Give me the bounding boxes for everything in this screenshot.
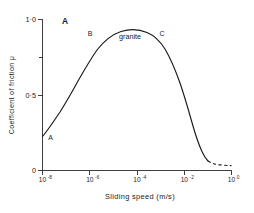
x-tick-label-exponent-1e-6: -6 [95, 175, 100, 180]
y-axis-title: Coefficient of friction μ [7, 56, 16, 135]
x-tick-label-exponent-1e-8: -8 [48, 175, 53, 180]
x-tick-label-mantissa-1e-4: 10 [133, 176, 141, 183]
x-tick-label-mantissa-1e0: 10 [228, 176, 236, 183]
y-tick-label-0: 0 [32, 166, 36, 175]
annotation-point-c: C [159, 30, 164, 37]
x-tick-label-exponent-1e0: 0 [237, 175, 240, 180]
annotation-point-a: A [48, 134, 53, 141]
x-tick-label-exponent-1e-4: -4 [142, 175, 147, 180]
x-tick-label-exponent-1e-2: -2 [190, 175, 195, 180]
friction-vs-sliding-speed-chart: 1·0 0·5 0 10 -8 10 -6 10 -4 10 -2 10 0 [0, 0, 254, 213]
panel-label: A [62, 16, 68, 26]
annotation-point-b: B [88, 30, 93, 37]
x-tick-label-mantissa-1e-8: 10 [39, 176, 47, 183]
x-axis-title: Sliding speed (m/s) [105, 192, 175, 201]
x-tick-label-mantissa-1e-2: 10 [181, 176, 189, 183]
annotation-series-granite: granite [119, 32, 141, 41]
y-tick-label-1.0: 1·0 [26, 15, 36, 24]
x-tick-label-mantissa-1e-6: 10 [86, 176, 94, 183]
figure-container: 1·0 0·5 0 10 -8 10 -6 10 -4 10 -2 10 0 [0, 0, 254, 213]
y-tick-label-0.5: 0·5 [26, 91, 36, 100]
